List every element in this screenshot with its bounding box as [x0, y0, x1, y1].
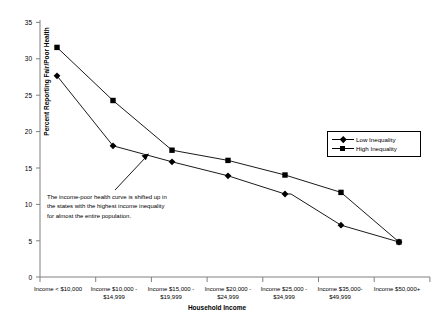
y-tick-label: 10 — [10, 201, 32, 208]
legend-marker-diamond-icon — [332, 135, 354, 144]
legend-item-high-inequality[interactable]: High Inequality — [332, 144, 416, 153]
annotation-line-2: the states with the highest income inequ… — [47, 202, 207, 211]
legend-label: Low Inequality — [354, 136, 396, 143]
y-tick-label: 0 — [10, 274, 32, 281]
annotation-arrow — [115, 154, 149, 191]
annotation-line-1: The income-poor health curve is shifted … — [47, 193, 207, 202]
x-tick-label: Income $50,000+ — [362, 285, 432, 293]
legend-marker-square-icon — [332, 144, 354, 153]
y-tick-label: 35 — [10, 19, 32, 26]
y-axis-title: Percent Reporting Fair/Poor Health — [43, 12, 50, 152]
annotation-line-3: for almost the entire population. — [47, 212, 207, 221]
legend-item-low-inequality[interactable]: Low Inequality — [332, 135, 416, 144]
y-tick-label: 5 — [10, 238, 32, 245]
y-axis-ticks — [36, 22, 40, 277]
legend-label: High Inequality — [354, 145, 397, 152]
chart-figure: 35 30 25 20 15 10 5 0 Percent Reporting … — [0, 0, 434, 323]
y-tick-label: 30 — [10, 55, 32, 62]
chart-canvas — [0, 0, 434, 323]
y-tick-label: 25 — [10, 92, 32, 99]
chart-annotation: The income-poor health curve is shifted … — [47, 193, 207, 221]
y-tick-label: 20 — [10, 128, 32, 135]
x-axis-ticks — [40, 277, 430, 282]
y-tick-label: 15 — [10, 165, 32, 172]
chart-legend: Low Inequality High Inequality — [327, 131, 421, 157]
x-axis-title: Household Income — [0, 304, 434, 311]
